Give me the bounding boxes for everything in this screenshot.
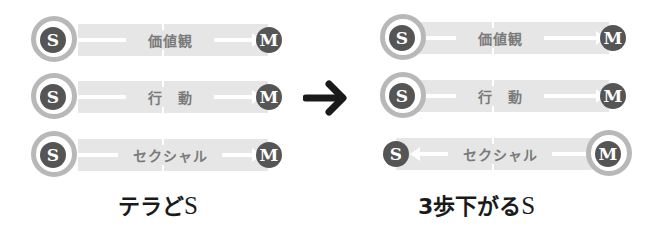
row-label: セクシャル	[118, 145, 222, 165]
row-label: 価値観	[126, 30, 214, 50]
row-label: 行 動	[126, 87, 214, 107]
arrowhead-left-icon	[410, 147, 420, 161]
caption-text: テラど	[118, 194, 184, 219]
row-label: 行 動	[456, 86, 544, 106]
m-circle: M	[600, 83, 626, 109]
s-circle: S	[40, 142, 66, 168]
s-circle: S	[383, 141, 409, 167]
s-circle: S	[389, 83, 415, 109]
caption-text: 3歩下がる	[418, 194, 521, 219]
row-label: セクシャル	[448, 144, 552, 164]
row-label: 価値観	[456, 28, 544, 48]
s-circle: S	[389, 25, 415, 51]
m-circle: M	[256, 84, 282, 110]
s-circle: S	[40, 84, 66, 110]
m-circle: M	[600, 25, 626, 51]
caption-s: S	[184, 192, 198, 219]
m-circle: M	[595, 141, 621, 167]
after-caption: 3歩下がるS	[418, 188, 535, 220]
s-circle: S	[40, 27, 66, 53]
right-arrow-icon	[303, 80, 349, 116]
before-caption: テラどS	[118, 188, 198, 220]
m-circle: M	[256, 27, 282, 53]
m-circle: M	[256, 142, 282, 168]
caption-s: S	[521, 192, 535, 219]
